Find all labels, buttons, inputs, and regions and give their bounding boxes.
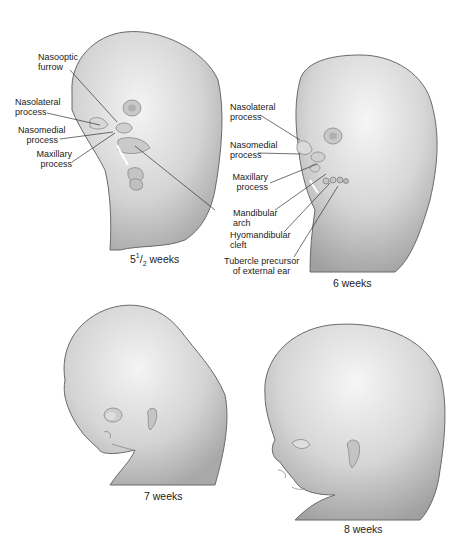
label-nasolateral-process-6: Nasolateral process (230, 102, 276, 122)
embryo-6-weeks (296, 55, 437, 272)
label-maxillary-process-6: Maxillary process (228, 172, 268, 192)
label-tubercle-precursor: Tubercle precursor of external ear (224, 256, 299, 276)
label-nasomedial-process-6: Nasomedial process (230, 140, 278, 160)
label-nasooptic-furrow: Nasooptic furrow (38, 52, 78, 72)
label-hyomandibular-cleft: Hyomandibular cleft (230, 230, 291, 250)
label-nasomedial-process-5-5: Nasomedial process (18, 125, 58, 145)
caption-5-5-weeks: 51/2 weeks (130, 252, 179, 267)
embryo-5-5-weeks (72, 32, 222, 250)
caption-7-weeks: 7 weeks (144, 490, 183, 502)
caption-8-weeks: 8 weeks (344, 523, 383, 535)
caption-6-weeks: 6 weeks (333, 277, 372, 289)
label-mandibular-arch: Mandibular arch (233, 208, 278, 228)
embryo-7-weeks (64, 305, 227, 485)
embryo-8-weeks (265, 324, 445, 520)
label-nasolateral-process-5-5: Nasolateral process (15, 97, 61, 117)
label-maxillary-process-5-5: Maxillary process (30, 149, 72, 169)
